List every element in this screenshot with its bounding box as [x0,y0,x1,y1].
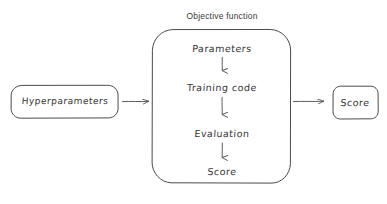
step-evaluation-label: Evaluation [194,128,250,139]
objective-function-diagram: Objective function Hyperparameters Param… [0,0,387,204]
hyperparameters-box-label: Hyperparameters [21,96,108,106]
score-box-label: Score [340,97,370,108]
objective-function-title: Objective function [186,11,257,21]
step-training-code-label: Training code [187,82,258,93]
step-score-label: Score [207,166,237,177]
step-parameters-label: Parameters [192,43,252,54]
